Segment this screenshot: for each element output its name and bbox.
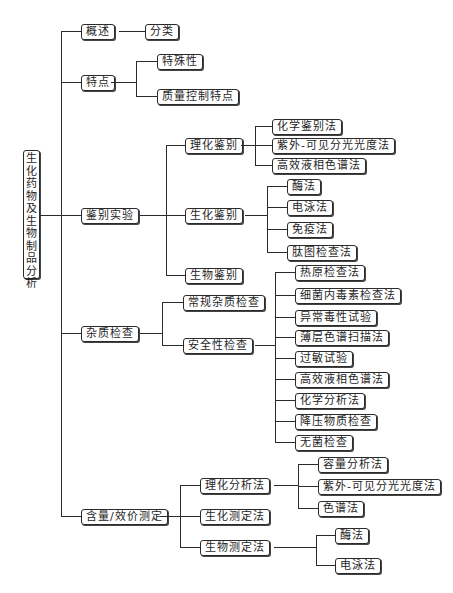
connector xyxy=(180,485,200,486)
node-enzyme-method: 酶法 xyxy=(335,528,369,544)
connector xyxy=(119,31,145,32)
node-allergy-test: 过敏试验 xyxy=(295,351,353,367)
connector xyxy=(275,337,295,338)
node-biochem-identification: 生化鉴别 xyxy=(185,208,243,224)
connector xyxy=(275,442,295,443)
connector xyxy=(166,215,185,216)
connector xyxy=(316,535,317,566)
node-pyrogen-test: 热原检查法 xyxy=(295,265,365,281)
connector xyxy=(245,215,267,216)
node-chemical-identification: 化学鉴别法 xyxy=(272,119,342,135)
connector xyxy=(162,345,183,346)
node-overview: 概述 xyxy=(81,24,115,40)
connector xyxy=(140,215,166,216)
node-immunoassay: 免疫法 xyxy=(287,222,333,238)
node-features: 特点 xyxy=(81,75,115,91)
connector xyxy=(160,516,180,517)
connector xyxy=(274,485,298,486)
node-enzyme-method: 酶法 xyxy=(287,179,321,195)
root-node: 生化药物及生物制品分析 xyxy=(23,150,40,279)
connector xyxy=(166,145,185,146)
connector xyxy=(166,145,167,276)
connector xyxy=(255,145,272,146)
node-uv-vis-spectrophotometry: 紫外-可见分光光度法 xyxy=(318,479,441,495)
connector xyxy=(61,215,81,216)
node-electrophoresis: 电泳法 xyxy=(335,558,381,574)
connector xyxy=(180,547,200,548)
connector xyxy=(61,516,81,517)
trunk-line xyxy=(61,31,62,517)
connector xyxy=(275,295,295,296)
connector xyxy=(275,421,295,422)
connector xyxy=(136,61,157,62)
node-biochem-assay: 生化测定法 xyxy=(200,509,270,525)
node-quality-control-features: 质量控制特点 xyxy=(157,89,239,105)
node-uv-vis-spectrophotometry: 紫外-可见分光光度法 xyxy=(272,138,395,154)
node-depressor-test: 降压物质检查 xyxy=(295,414,377,430)
node-abnormal-toxicity: 异常毒性试验 xyxy=(295,310,377,326)
node-hplc: 高效液相色谱法 xyxy=(272,158,366,174)
connector xyxy=(162,302,183,303)
node-assay: 含量/效价测定 xyxy=(81,509,168,525)
connector xyxy=(275,379,295,380)
connector xyxy=(267,186,268,253)
node-specificity: 特殊性 xyxy=(157,54,203,70)
connector xyxy=(61,31,81,32)
node-impurity-test: 杂质检查 xyxy=(81,326,139,342)
connector xyxy=(136,61,137,97)
connector xyxy=(275,358,295,359)
connector xyxy=(255,345,275,346)
connector xyxy=(166,275,185,276)
node-chromatography: 色谱法 xyxy=(318,501,364,517)
connector xyxy=(111,82,136,83)
connector xyxy=(241,145,255,146)
node-peptide-mapping: 肽图检查法 xyxy=(287,245,357,261)
connector xyxy=(316,565,335,566)
mindmap-diagram: 生化药物及生物制品分析 概述 分类 特点 特殊性 质量控制特点 鉴别实验 理化鉴… xyxy=(0,0,453,593)
node-hplc: 高效液相色谱法 xyxy=(295,372,389,388)
node-physchem-analysis: 理化分析法 xyxy=(200,478,270,494)
node-classification: 分类 xyxy=(145,24,179,40)
node-tlc-scanning: 薄层色谱扫描法 xyxy=(295,330,389,346)
connector xyxy=(298,486,318,487)
node-endotoxin-test: 细菌内毒素检查法 xyxy=(295,288,401,304)
connector xyxy=(162,302,163,346)
connector xyxy=(255,126,272,127)
connector xyxy=(267,252,287,253)
connector xyxy=(275,272,295,273)
connector xyxy=(275,400,295,401)
connector xyxy=(274,547,316,548)
connector xyxy=(267,207,287,208)
connector xyxy=(298,508,318,509)
node-physchem-identification: 理化鉴别 xyxy=(185,138,243,154)
connector xyxy=(136,96,157,97)
connector xyxy=(61,333,81,334)
node-safety-test: 安全性检查 xyxy=(183,338,253,354)
node-chemical-analysis: 化学分析法 xyxy=(295,393,365,409)
connector xyxy=(267,229,287,230)
node-volumetric-analysis: 容量分析法 xyxy=(318,457,388,473)
connector xyxy=(275,317,295,318)
node-electrophoresis: 电泳法 xyxy=(287,200,333,216)
node-bio-identification: 生物鉴别 xyxy=(185,268,243,284)
node-routine-impurity: 常规杂质检查 xyxy=(183,295,265,311)
node-sterility-test: 无菌检查 xyxy=(295,435,353,451)
connector xyxy=(267,186,287,187)
connector xyxy=(140,333,162,334)
connector xyxy=(255,165,272,166)
connector xyxy=(61,82,81,83)
connector xyxy=(180,516,200,517)
connector xyxy=(298,464,318,465)
node-bio-assay: 生物测定法 xyxy=(200,540,270,556)
connector xyxy=(39,215,61,216)
node-identification: 鉴别实验 xyxy=(81,208,139,224)
connector xyxy=(316,535,335,536)
